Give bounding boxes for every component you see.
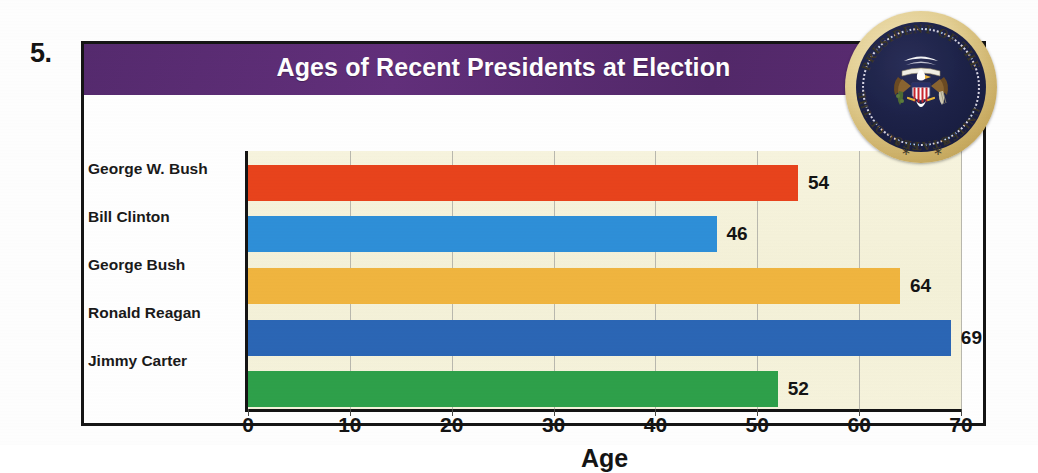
x-tick-label-10: 10 <box>338 413 361 437</box>
gridline-70 <box>961 151 962 409</box>
x-axis-line <box>245 409 961 412</box>
bar-value-label-george-bush: 64 <box>910 268 931 304</box>
x-tick-label-70: 70 <box>949 413 972 437</box>
bar-bill-clinton <box>248 216 717 252</box>
bar-george-w-bush <box>248 165 798 201</box>
x-tick-label-60: 60 <box>847 413 870 437</box>
category-label-bill-clinton: Bill Clinton <box>88 199 248 235</box>
category-label-george-w-bush: George W. Bush <box>88 151 248 187</box>
bar-ronald-reagan <box>248 320 951 356</box>
bar-value-label-bill-clinton: 46 <box>727 216 748 252</box>
bar-value-label-jimmy-carter: 52 <box>788 371 809 407</box>
category-axis-labels: George W. Bush Bill Clinton George Bush … <box>102 151 248 409</box>
category-label-george-bush: George Bush <box>88 247 248 283</box>
x-tick-label-30: 30 <box>542 413 565 437</box>
bar-value-label-ronald-reagan: 69 <box>961 320 982 356</box>
category-label-ronald-reagan: Ronald Reagan <box>88 295 248 331</box>
x-tick-label-20: 20 <box>440 413 463 437</box>
exercise-number: 5. <box>30 38 52 69</box>
plot-area: 5446646952 <box>248 151 961 409</box>
bar-jimmy-carter <box>248 371 778 407</box>
x-tick-label-50: 50 <box>746 413 769 437</box>
x-axis-title: Age <box>248 444 961 473</box>
bar-george-bush <box>248 268 900 304</box>
x-tick-label-40: 40 <box>644 413 667 437</box>
bar-value-label-george-w-bush: 54 <box>808 165 829 201</box>
x-tick-label-0: 0 <box>242 413 254 437</box>
presidential-seal-icon: PRESIDENT OF THE STATES ∗ ∗ SEAL OF THEU… <box>845 11 997 163</box>
eagle-emblem-icon <box>886 51 956 125</box>
svg-text:∗: ∗ <box>933 144 943 158</box>
category-label-jimmy-carter: Jimmy Carter <box>88 343 248 379</box>
